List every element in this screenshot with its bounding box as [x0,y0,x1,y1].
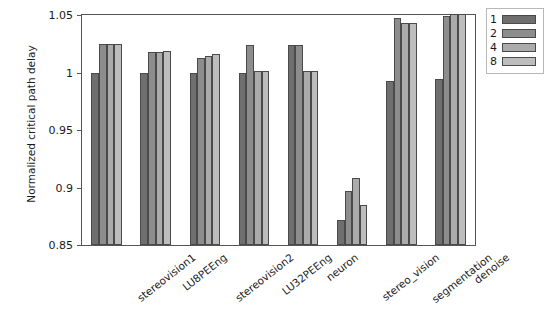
bar [99,44,107,245]
y-axis-tick-label: 0.95 [13,124,73,137]
bar [140,73,148,246]
bar [352,178,360,245]
bar [114,44,122,245]
bar [197,58,205,245]
y-axis-tick-label: 1 [13,66,73,79]
bar [163,51,171,245]
legend-item-label: 1 [490,13,502,26]
bar [254,71,262,245]
bar [337,220,345,245]
bar [262,71,270,245]
legend-color-swatch [502,57,536,66]
bar [360,205,368,245]
bar-group [337,15,367,245]
bar [295,45,303,245]
y-axis-tick-label: 1.05 [13,9,73,22]
y-axis-tick-label: 0.85 [13,239,73,252]
legend-item-label: 2 [490,27,502,40]
legend-item[interactable]: 8 [490,55,540,68]
bar-group [140,15,170,245]
bar [156,52,164,245]
legend-item-label: 8 [490,55,502,68]
bar [386,81,394,245]
bar-chart-figure: Normalized critical path delay 0.850.90.… [0,0,551,321]
legend-color-swatch [502,43,536,52]
bar [205,56,213,245]
bar [246,45,254,245]
legend: 1248 [486,8,544,74]
bar [409,23,417,245]
bar [91,73,99,246]
bar-group [190,15,220,245]
bar [212,54,220,245]
legend-item[interactable]: 2 [490,27,540,40]
bar-group [91,15,121,245]
bar-group [288,15,318,245]
bar [394,18,402,245]
bar-group [386,15,416,245]
y-axis-tick-label: 0.9 [13,181,73,194]
legend-item[interactable]: 4 [490,41,540,54]
bar [288,45,296,245]
bar [148,52,156,245]
legend-color-swatch [502,15,536,24]
bar [303,71,311,245]
legend-item-label: 4 [490,41,502,54]
bar [345,191,353,245]
bar [443,16,451,245]
bar [401,23,409,245]
legend-item[interactable]: 1 [490,13,540,26]
bar [435,79,443,245]
bar [450,14,458,245]
bar-group [239,15,269,245]
bar [190,73,198,246]
bar-group [435,15,465,245]
bar [311,71,319,245]
legend-color-swatch [502,29,536,38]
plot-inner [82,15,475,245]
bar [239,73,247,246]
bar [107,44,115,245]
bar [458,14,466,245]
plot-area [81,14,476,246]
